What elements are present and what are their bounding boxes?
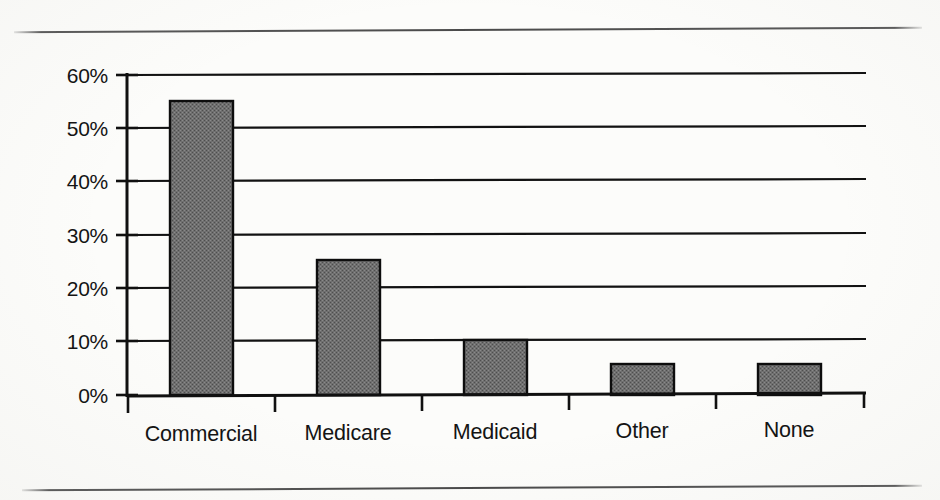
x-axis-line: [127, 393, 866, 396]
gridline-40: [127, 179, 866, 181]
y-axis-label-60: 60%: [67, 64, 108, 87]
x-axis-label-medicaid: Medicaid: [453, 420, 537, 444]
bar-chart-figure: 60% 50% 40% 30% 20% 10% 0% Commercial Me…: [0, 0, 940, 500]
y-axis-label-0: 0%: [78, 384, 108, 407]
x-axis-label-other: Other: [616, 419, 669, 443]
x-axis-labels: Commercial Medicare Medicaid Other None: [145, 418, 815, 446]
scanned-page: 60% 50% 40% 30% 20% 10% 0% Commercial Me…: [0, 0, 940, 500]
gridlines: [127, 73, 866, 341]
y-axis-label-30: 30%: [67, 224, 108, 247]
bar-other[interactable]: [611, 364, 674, 395]
x-axis-label-commercial: Commercial: [145, 422, 258, 446]
y-axis-label-50: 50%: [67, 117, 108, 140]
gridline-60: [127, 73, 866, 75]
bar-series: [170, 101, 821, 395]
gridline-30: [127, 233, 866, 235]
gridline-20: [127, 286, 866, 288]
x-axis-label-medicare: Medicare: [305, 421, 392, 445]
x-axis-label-none: None: [764, 418, 815, 442]
y-axis-label-20: 20%: [67, 277, 108, 300]
gridline-50: [127, 126, 866, 128]
bar-medicaid[interactable]: [464, 340, 527, 395]
y-axis-labels: 60% 50% 40% 30% 20% 10% 0%: [67, 64, 108, 407]
bar-commercial[interactable]: [170, 101, 233, 395]
y-axis-label-40: 40%: [67, 170, 108, 193]
bar-medicare[interactable]: [317, 260, 380, 395]
bar-none[interactable]: [758, 364, 821, 395]
y-axis-label-10: 10%: [67, 330, 108, 353]
